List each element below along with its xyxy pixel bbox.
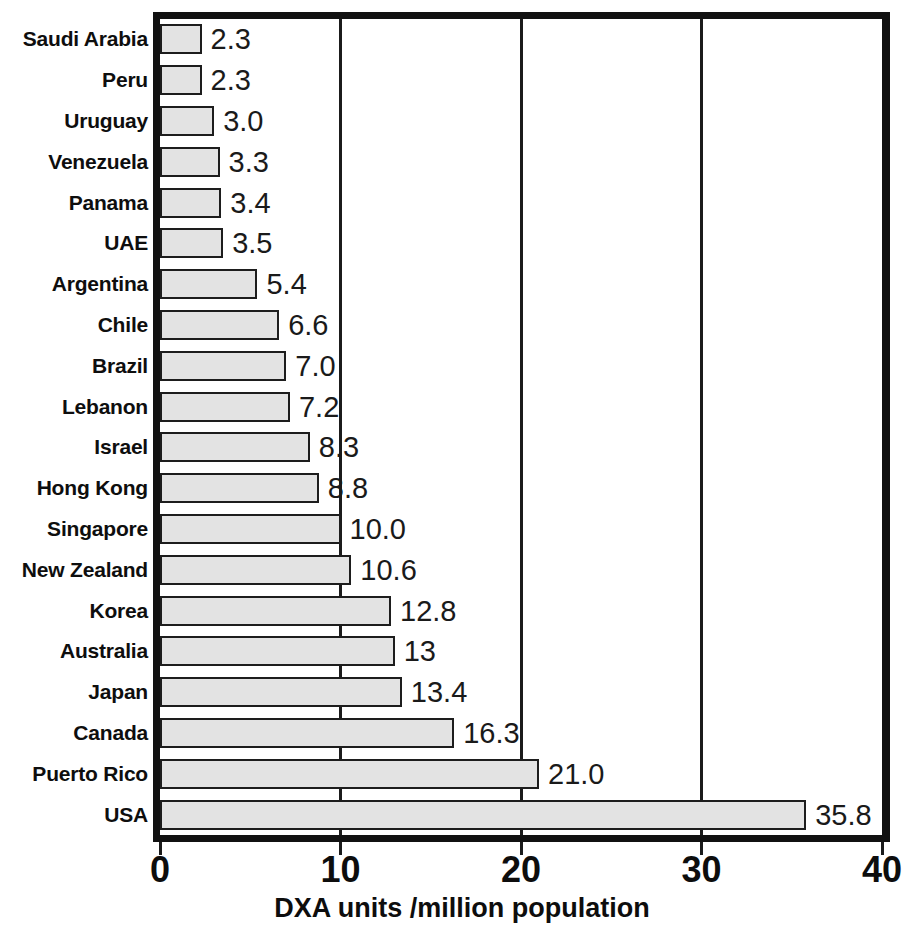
bar — [160, 759, 539, 789]
category-label: Uruguay — [0, 110, 148, 131]
x-axis-tick-labels: 010203040 — [0, 852, 924, 894]
bar-row: 8.8 — [160, 473, 882, 503]
bar — [160, 718, 454, 748]
bar-row: 13.4 — [160, 677, 882, 707]
bar-value-label: 3.4 — [230, 188, 270, 217]
category-label: Singapore — [0, 518, 148, 539]
bar-value-label: 35.8 — [815, 800, 871, 829]
x-tick-label-30: 30 — [681, 852, 721, 888]
bar-value-label: 3.3 — [229, 147, 269, 176]
gridline-10 — [339, 19, 342, 835]
bar-value-label: 8.3 — [319, 433, 359, 462]
bar-row: 3.5 — [160, 228, 882, 258]
category-label: USA — [0, 804, 148, 825]
bar-value-label: 5.4 — [266, 270, 306, 299]
category-label: Puerto Rico — [0, 763, 148, 784]
bar-value-label: 13 — [404, 637, 436, 666]
bar-value-label: 10.6 — [360, 555, 416, 584]
x-tick-label-10: 10 — [320, 852, 360, 888]
bar-value-label: 12.8 — [400, 596, 456, 625]
bar — [160, 636, 395, 666]
category-label: Lebanon — [0, 396, 148, 417]
plot-inner: 2.32.33.03.33.43.55.46.67.07.28.38.810.0… — [160, 19, 882, 835]
category-label: Israel — [0, 436, 148, 457]
bar-row: 8.3 — [160, 432, 882, 462]
bar-value-label: 2.3 — [211, 25, 251, 54]
category-label: Korea — [0, 600, 148, 621]
category-label: Saudi Arabia — [0, 28, 148, 49]
bar — [160, 351, 286, 381]
bar-value-label: 3.0 — [223, 107, 263, 136]
bar — [160, 65, 202, 95]
bar — [160, 392, 290, 422]
bar — [160, 106, 214, 136]
bar-row: 21.0 — [160, 759, 882, 789]
bar — [160, 432, 310, 462]
x-tick-label-0: 0 — [150, 852, 170, 888]
category-label: Brazil — [0, 355, 148, 376]
category-label: Japan — [0, 681, 148, 702]
category-label: Chile — [0, 314, 148, 335]
bar-value-label: 10.0 — [350, 515, 406, 544]
bar-row: 6.6 — [160, 310, 882, 340]
bar — [160, 147, 220, 177]
bar-value-label: 8.8 — [328, 474, 368, 503]
bar-row: 3.0 — [160, 106, 882, 136]
bar-row: 35.8 — [160, 800, 882, 830]
bar-value-label: 3.5 — [232, 229, 272, 258]
x-tick-label-20: 20 — [501, 852, 541, 888]
bar-row: 13 — [160, 636, 882, 666]
bar-row: 16.3 — [160, 718, 882, 748]
bar-row: 5.4 — [160, 269, 882, 299]
bar — [160, 188, 221, 218]
bar — [160, 228, 223, 258]
bar-value-label: 21.0 — [548, 759, 604, 788]
bar-value-label: 7.2 — [299, 392, 339, 421]
bar — [160, 310, 279, 340]
bar-row: 12.8 — [160, 596, 882, 626]
category-label: Canada — [0, 722, 148, 743]
bar — [160, 555, 351, 585]
category-label: Panama — [0, 192, 148, 213]
gridline-30 — [700, 19, 703, 835]
bar — [160, 473, 319, 503]
plot-area: 2.32.33.03.33.43.55.46.67.07.28.38.810.0… — [153, 12, 890, 842]
x-axis-title: DXA units /million population — [0, 894, 924, 924]
bar — [160, 677, 402, 707]
bar-value-label: 13.4 — [411, 678, 467, 707]
bar-row: 3.3 — [160, 147, 882, 177]
bar-row: 10.0 — [160, 514, 882, 544]
category-label: Australia — [0, 640, 148, 661]
bar-row: 10.6 — [160, 555, 882, 585]
bar-value-label: 7.0 — [295, 351, 335, 380]
x-tick-label-40: 40 — [862, 852, 902, 888]
category-label: Argentina — [0, 273, 148, 294]
category-label: UAE — [0, 232, 148, 253]
bar-row: 7.2 — [160, 392, 882, 422]
category-label: New Zealand — [0, 559, 148, 580]
bar — [160, 269, 257, 299]
bar-value-label: 16.3 — [463, 719, 519, 748]
bar — [160, 514, 341, 544]
category-label: Hong Kong — [0, 477, 148, 498]
bar — [160, 800, 806, 830]
bar-chart: Saudi ArabiaPeruUruguayVenezuelaPanamaUA… — [0, 0, 924, 934]
bar — [160, 24, 202, 54]
bar — [160, 596, 391, 626]
bar-value-label: 2.3 — [211, 66, 251, 95]
category-label: Peru — [0, 69, 148, 90]
bar-row: 7.0 — [160, 351, 882, 381]
bar-row: 2.3 — [160, 24, 882, 54]
bar-row: 3.4 — [160, 188, 882, 218]
gridline-20 — [520, 19, 523, 835]
bar-value-label: 6.6 — [288, 311, 328, 340]
category-label: Venezuela — [0, 151, 148, 172]
bar-row: 2.3 — [160, 65, 882, 95]
category-axis-labels: Saudi ArabiaPeruUruguayVenezuelaPanamaUA… — [0, 12, 148, 842]
